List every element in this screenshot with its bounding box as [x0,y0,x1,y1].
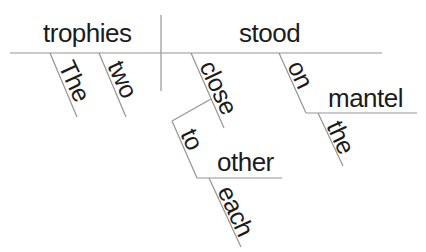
sentence-diagram: trophiesstoodThetwoclosetoothereachonman… [0,0,426,252]
word-other: other [217,149,274,175]
word-stood: stood [239,20,300,46]
word-mantel: mantel [328,85,403,111]
word-trophies: trophies [43,20,132,46]
close-to-bracket [172,99,211,121]
